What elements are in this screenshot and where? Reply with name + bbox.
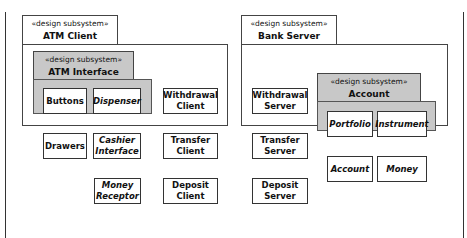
atm-interface-name: ATM Interface — [34, 66, 133, 78]
class-instrument[interactable]: Instrument — [377, 111, 427, 137]
class-buttons[interactable]: Buttons — [43, 88, 87, 114]
class-withdrawal-server[interactable]: Withdrawal Server — [252, 88, 308, 114]
deposit-server-label: Deposit Server — [253, 180, 307, 202]
class-withdrawal-client[interactable]: Withdrawal Client — [163, 88, 218, 114]
portfolio-label: Portfolio — [329, 119, 371, 130]
bank-server-tab: «design subsystem» Bank Server — [241, 15, 337, 45]
cashier-interface-label: Cashier Interface — [94, 135, 140, 157]
drawers-label: Drawers — [45, 141, 85, 152]
class-transfer-client[interactable]: Transfer Client — [163, 133, 218, 159]
class-money-receptor[interactable]: Money Receptor — [94, 178, 141, 204]
atm-interface-stereotype: «design subsystem» — [34, 52, 133, 66]
atm-client-stereotype: «design subsystem» — [23, 16, 117, 30]
transfer-server-label: Transfer Server — [253, 135, 307, 157]
class-deposit-server[interactable]: Deposit Server — [252, 178, 308, 204]
frame-left-border — [5, 12, 6, 238]
withdrawal-client-label: Withdrawal Client — [163, 90, 218, 112]
class-portfolio[interactable]: Portfolio — [327, 111, 373, 137]
bank-server-name: Bank Server — [242, 30, 336, 42]
atm-interface-tab: «design subsystem» ATM Interface — [33, 51, 134, 80]
buttons-label: Buttons — [46, 96, 84, 107]
dispenser-label: Dispenser — [93, 96, 141, 107]
account-management-stereotype: «design subsystem» — [318, 74, 420, 88]
withdrawal-server-label: Withdrawal Server — [253, 90, 308, 112]
instrument-label: Instrument — [375, 119, 428, 130]
frame-right-border — [463, 12, 464, 238]
class-deposit-client[interactable]: Deposit Client — [163, 178, 218, 204]
deposit-client-label: Deposit Client — [164, 180, 217, 202]
class-cashier-interface[interactable]: Cashier Interface — [93, 133, 141, 159]
class-transfer-server[interactable]: Transfer Server — [252, 133, 308, 159]
bank-server-stereotype: «design subsystem» — [242, 16, 336, 30]
class-account[interactable]: Account — [327, 156, 373, 182]
atm-client-name: ATM Client — [23, 30, 117, 42]
transfer-client-label: Transfer Client — [164, 135, 217, 157]
atm-client-tab: «design subsystem» ATM Client — [22, 15, 118, 45]
account-management-tab: «design subsystem» Account Management — [317, 73, 421, 102]
class-money[interactable]: Money — [377, 156, 427, 182]
money-receptor-label: Money Receptor — [95, 180, 140, 202]
class-dispenser[interactable]: Dispenser — [93, 88, 141, 114]
money-label: Money — [386, 164, 418, 175]
class-drawers[interactable]: Drawers — [43, 133, 87, 159]
account-label: Account — [331, 164, 369, 175]
